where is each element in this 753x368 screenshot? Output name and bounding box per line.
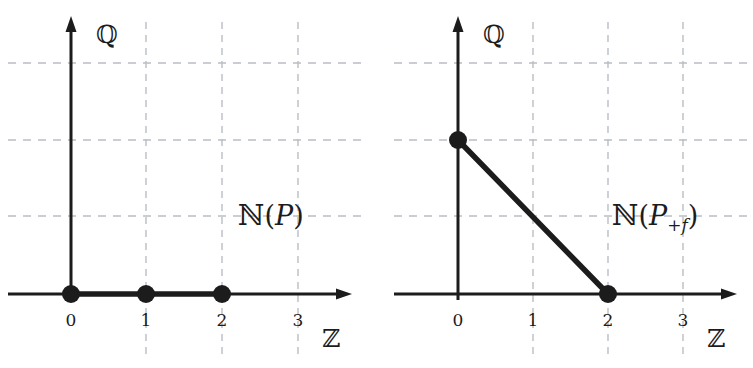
vertex-1-0 [137,285,155,303]
set-label-base: P [649,200,667,231]
x-axis-label: ℤ [707,326,726,351]
panel-newton-polygon-p: ℚ ℤ 0 1 2 3 ℕ(P) [0,0,376,368]
y-axis [453,16,464,300]
set-label-base: P [275,200,293,231]
paren-close: ) [293,200,304,231]
y-axis-arrowhead [66,16,77,32]
set-label-newton-p: ℕ(P) [238,201,304,234]
set-label-newton-p-plus-f: ℕ(P+f) [612,201,698,234]
x-tick-label-3: 3 [673,312,693,329]
vertex-2-0 [599,285,617,303]
paren-close: ) [688,200,699,231]
x-tick-label-1: 1 [523,312,543,329]
x-axis [394,289,737,300]
paren-open: ( [265,200,276,231]
y-axis-arrowhead [453,16,464,32]
x-axis-arrowhead [336,289,352,300]
y-axis [66,16,77,300]
plot-right [376,0,752,368]
y-axis-label: ℚ [96,22,118,47]
grid-horizontal-lines [394,63,752,216]
x-axis-arrowhead [721,289,737,300]
x-axis-label: ℤ [322,326,341,351]
script-n-glyph: ℕ [238,198,265,232]
plot-left [0,0,376,368]
x-tick-label-0: 0 [448,312,468,329]
vertex-2-0 [213,285,231,303]
grid-horizontal-lines [8,63,368,216]
paren-open: ( [639,200,650,231]
figure-container: ℚ ℤ 0 1 2 3 ℕ(P) [0,0,753,368]
vertex-0-2 [449,131,467,149]
x-tick-label-2: 2 [212,312,232,329]
x-tick-label-3: 3 [288,312,308,329]
vertex-0-0 [62,285,80,303]
y-axis-label: ℚ [483,22,505,47]
x-tick-label-2: 2 [598,312,618,329]
script-n-glyph: ℕ [612,198,639,232]
panel-newton-polygon-p-plus-f: ℚ ℤ 0 1 2 3 ℕ(P+f) [376,0,752,368]
x-tick-label-0: 0 [61,312,81,329]
x-tick-label-1: 1 [136,312,156,329]
set-label-subscript: +f [667,215,688,235]
